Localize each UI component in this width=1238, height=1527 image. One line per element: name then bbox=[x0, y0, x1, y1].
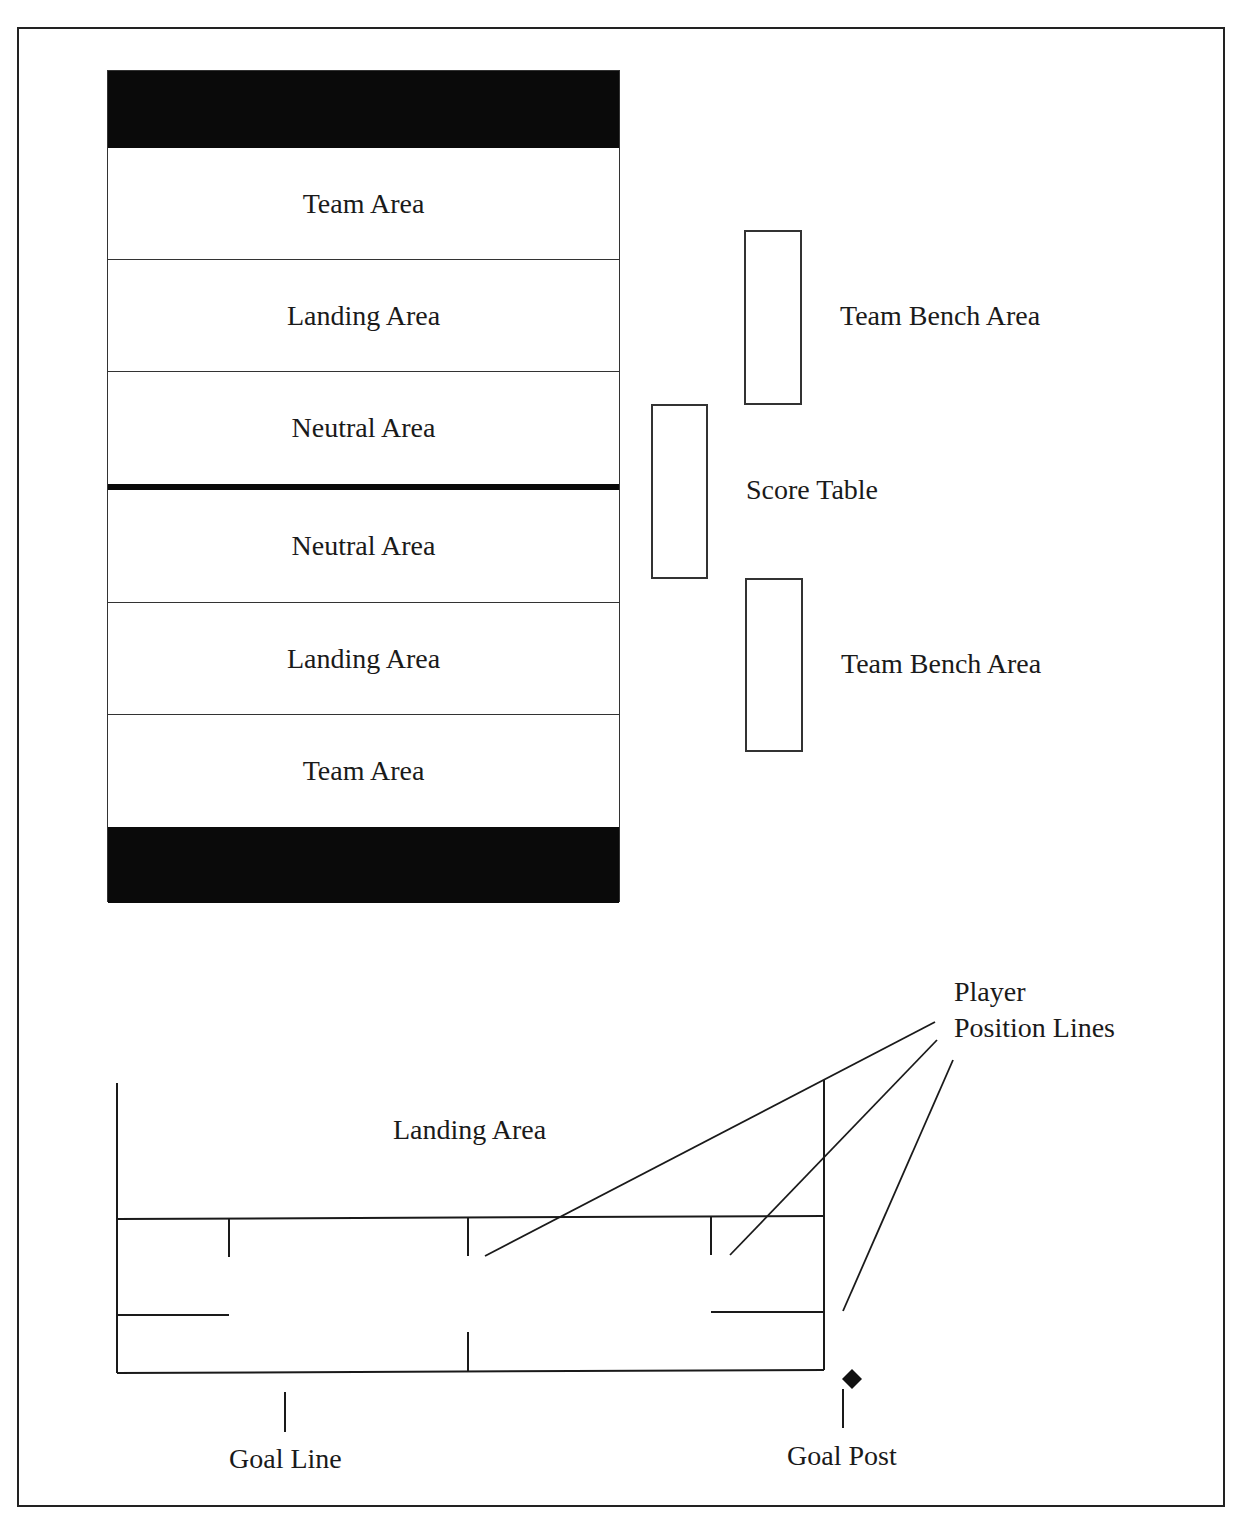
goal-line-label: Goal Line bbox=[229, 1443, 342, 1475]
landing-area-line bbox=[117, 1216, 824, 1219]
landing-area-detail-label: Landing Area bbox=[393, 1114, 546, 1146]
goal-post-label: Goal Post bbox=[787, 1440, 897, 1472]
callout-line-2 bbox=[730, 1040, 937, 1255]
goal-detail-drawing bbox=[0, 0, 1238, 1527]
goal-post-diamond-icon bbox=[842, 1369, 862, 1389]
player-position-label-line2: Position Lines bbox=[954, 1012, 1115, 1044]
player-position-label-line1: Player bbox=[954, 976, 1026, 1008]
callout-line-3 bbox=[843, 1060, 953, 1311]
goal-line bbox=[117, 1370, 824, 1373]
